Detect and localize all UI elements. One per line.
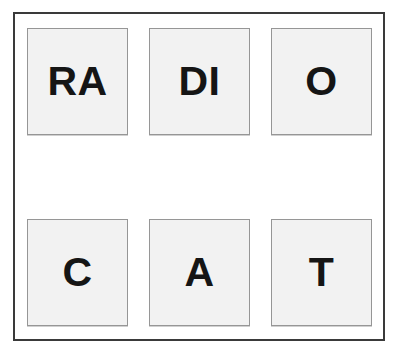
tile-frame-border: RA DI O C A T xyxy=(13,12,385,341)
tile-letters: A xyxy=(184,252,214,293)
worksheet-canvas: RA DI O C A T xyxy=(0,0,405,354)
tile-grid: RA DI O C A T xyxy=(27,28,372,327)
letter-tile[interactable]: T xyxy=(271,219,372,326)
letter-tile[interactable]: O xyxy=(271,28,372,135)
tile-letters: RA xyxy=(47,61,107,102)
tile-letters: DI xyxy=(179,61,221,102)
letter-tile[interactable]: C xyxy=(27,219,128,326)
letter-tile[interactable]: DI xyxy=(149,28,250,135)
letter-tile[interactable]: A xyxy=(149,219,250,326)
tile-letters: C xyxy=(62,252,92,293)
tile-letters: T xyxy=(309,252,335,293)
letter-tile[interactable]: RA xyxy=(27,28,128,135)
tile-letters: O xyxy=(305,61,337,102)
